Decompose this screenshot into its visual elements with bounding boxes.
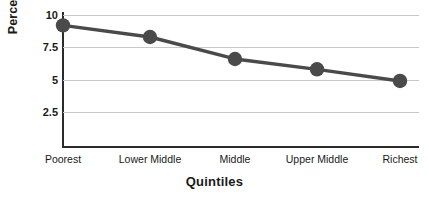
data-series-line (63, 15, 419, 145)
y-axis-ticks: 10 7.5 5 2.5 (18, 0, 58, 200)
x-tick-label-lower-middle: Lower Middle (119, 151, 181, 167)
chart-figure: Percent 10 7.5 5 2.5 Poorest Lower Middl… (0, 0, 429, 200)
y-tick-label: 10 (18, 9, 58, 21)
y-tick-label: 2.5 (18, 106, 58, 118)
data-point-marker (228, 52, 242, 66)
x-axis-ticks: Poorest Lower Middle Middle Upper Middle… (0, 151, 429, 169)
y-tick-label: 7.5 (18, 41, 58, 53)
x-tick-label-upper-middle: Upper Middle (286, 151, 348, 167)
x-tick-label-poorest: Poorest (45, 151, 81, 167)
y-tick-label: 5 (18, 74, 58, 86)
x-tick-label-middle: Middle (220, 151, 251, 167)
data-point-marker (393, 74, 407, 88)
x-axis-title: Quintiles (0, 174, 429, 189)
plot-area (63, 15, 419, 145)
x-axis-spine (62, 146, 419, 148)
x-tick-label-richest: Richest (382, 151, 417, 167)
data-point-marker (143, 30, 157, 44)
data-point-marker (310, 62, 324, 76)
data-point-marker (56, 18, 70, 32)
